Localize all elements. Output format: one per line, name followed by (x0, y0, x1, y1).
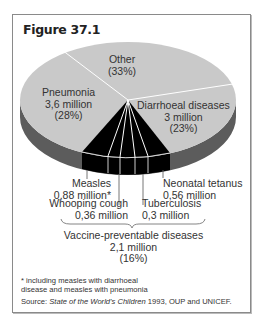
source-line: Source: State of the World's Children 19… (21, 297, 232, 306)
label-neonatal-tetanus: Neonatal tetanus 0,56 million (163, 178, 242, 201)
label-tuberculosis: Tuberculosis 0,3 million (142, 198, 201, 221)
label-pneumonia: Pneumonia 3,6 million (28%) (42, 87, 95, 122)
footnote: * including measles with diarrhoeal dise… (21, 276, 148, 294)
label-whooping-cough: Whooping cough 0,36 million (40, 198, 128, 221)
label-vaccine-preventable: Vaccine-preventable diseases 2,1 million… (46, 230, 221, 265)
label-other: Other (33%) (108, 54, 136, 77)
label-diarrhoeal: Diarrhoeal diseases 3 million (23%) (137, 100, 230, 135)
